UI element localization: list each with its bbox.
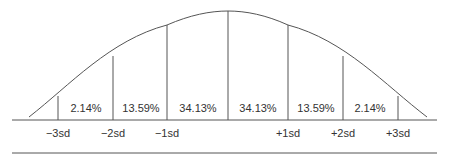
segment-label: 13.59% <box>297 102 335 114</box>
segment-label: 34.13% <box>179 102 217 114</box>
sd-label: −1sd <box>155 127 179 139</box>
normal-distribution-diagram: 2.14% 13.59% 34.13% 34.13% 13.59% 2.14% … <box>0 0 452 157</box>
segment-label: 2.14% <box>70 102 101 114</box>
segment-label: 34.13% <box>239 102 277 114</box>
segment-label: 2.14% <box>354 102 385 114</box>
sd-label: +2sd <box>331 127 355 139</box>
sd-label: −2sd <box>101 127 125 139</box>
segment-label: 13.59% <box>122 102 160 114</box>
sd-label: −3sd <box>46 127 70 139</box>
sd-label: +1sd <box>276 127 300 139</box>
sd-label: +3sd <box>386 127 410 139</box>
